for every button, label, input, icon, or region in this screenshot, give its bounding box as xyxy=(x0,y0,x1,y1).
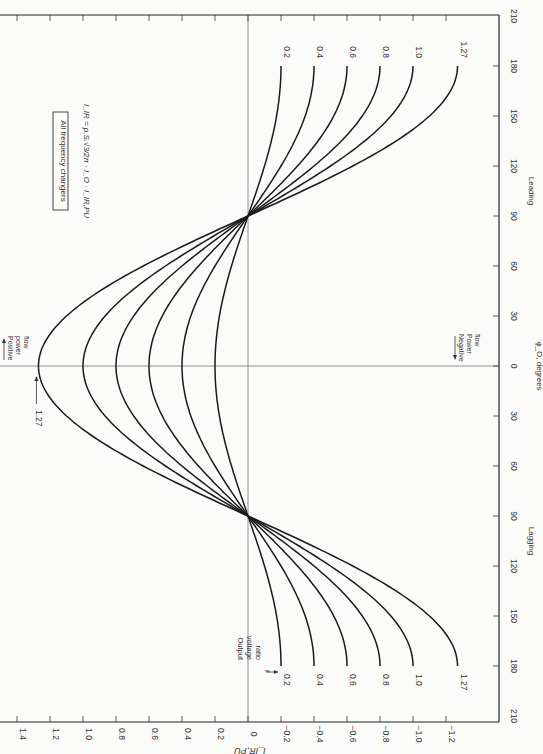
phase-tick-label: 210 xyxy=(509,709,519,723)
negative-power-flow-label: Negative xyxy=(457,334,465,362)
phase-tick-label: 180 xyxy=(509,59,519,73)
phase-tick-label: 120 xyxy=(509,159,519,173)
phase-tick-label: 60 xyxy=(509,261,519,271)
lagging-label: Lagging xyxy=(527,527,536,555)
curve-label-leading: 1.0 xyxy=(414,46,424,58)
current-tick-label: 1.0 xyxy=(84,728,94,740)
positive-flow-arrow-head xyxy=(2,338,6,343)
curve-label-leading: 0.4 xyxy=(315,46,325,58)
current-tick-label: 0.8 xyxy=(117,728,127,740)
curve-label-lagging: 0.8 xyxy=(381,674,391,686)
current-tick-label: 0.6 xyxy=(150,728,160,740)
current-tick-label: 1.2 xyxy=(51,728,61,740)
negative-power-flow-label: Power xyxy=(466,334,473,355)
current-tick-label: −0.2 xyxy=(282,726,292,743)
phase-tick-label: 180 xyxy=(509,659,519,673)
output-voltage-ratio-label: Output xyxy=(236,637,245,660)
output-voltage-ratio-label: ratio xyxy=(254,645,263,660)
positive-power-flow-label: Positive xyxy=(7,336,14,361)
formula-label: I_IR = p.S.√3/2π · I_O · I_IR,PU xyxy=(82,104,91,218)
phase-tick-label: 30 xyxy=(509,311,519,321)
current-tick-label: 0.2 xyxy=(216,728,226,740)
current-tick-label: −1.0 xyxy=(414,726,424,743)
current-tick-label: 0.4 xyxy=(183,728,193,740)
peak-label: 1.27 xyxy=(34,410,44,427)
curve-label-lagging: 0.2 xyxy=(282,674,292,686)
curve-label-leading: 1.27 xyxy=(459,41,469,58)
current-tick-label: 1.4 xyxy=(18,728,28,740)
curve-label-lagging: 0.4 xyxy=(315,674,325,686)
phase-tick-label: 150 xyxy=(509,109,519,123)
curve-label-leading: 0.6 xyxy=(348,46,358,58)
phase-tick-label: 0 xyxy=(509,364,519,369)
phase-tick-label: 60 xyxy=(509,461,519,471)
current-tick-label: −0.8 xyxy=(381,726,391,743)
current-tick-label: −0.4 xyxy=(315,726,325,743)
current-tick-label: −0.6 xyxy=(348,726,358,743)
phase-tick-label: 90 xyxy=(509,211,519,221)
curve-label-lagging: 0.6 xyxy=(348,674,358,686)
output-voltage-ratio-label: voltage xyxy=(245,636,254,660)
current-tick-label: −1.2 xyxy=(447,726,457,743)
curve-label-leading: 0.2 xyxy=(282,46,292,58)
title-box-label: All frequency changers xyxy=(59,120,68,201)
leading-label: Leading xyxy=(527,177,536,205)
phase-axis-title: φ_O, degrees xyxy=(535,341,543,390)
ovr-arrow-head xyxy=(274,670,278,674)
curve-label-leading: 0.8 xyxy=(381,46,391,58)
positive-power-flow-label: flow xyxy=(23,336,30,349)
phase-tick-label: 210 xyxy=(509,9,519,23)
peak-arrow-head xyxy=(34,376,38,381)
phase-tick-label: 150 xyxy=(509,609,519,623)
chart: 1.41.21.00.80.60.40.20−0.2−0.4−0.6−0.8−1… xyxy=(0,0,543,754)
curve-label-lagging: 1.0 xyxy=(414,674,424,686)
curve-label-lagging: 1.27 xyxy=(459,674,469,691)
current-tick-label: 0 xyxy=(249,732,259,737)
current-axis-title: I_IR,PU xyxy=(234,746,266,754)
positive-power-flow-label: power xyxy=(14,336,22,356)
negative-flow-arrow-head xyxy=(453,355,457,360)
phase-tick-label: 90 xyxy=(509,511,519,521)
phase-tick-label: 30 xyxy=(509,411,519,421)
phase-tick-label: 120 xyxy=(509,559,519,573)
negative-power-flow-label: flow xyxy=(474,334,481,347)
output-voltage-ratio-label: r xyxy=(263,670,272,673)
